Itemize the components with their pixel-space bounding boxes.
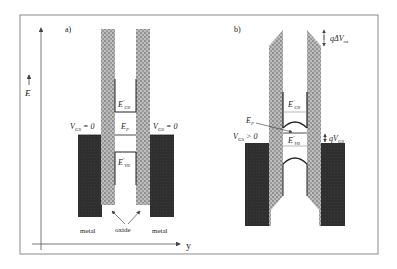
valence-band-label-a: E′V0 (117, 157, 130, 168)
metal-right-b (320, 143, 345, 226)
conduction-band-label-b: E′C0 (287, 99, 301, 110)
metal-left-b (245, 143, 271, 226)
y-axis-label: y (186, 240, 191, 251)
valence-band-edge-a (115, 152, 136, 185)
metal-right-a (150, 135, 174, 217)
gate-bias-left-a: VGS = 0 (70, 122, 94, 132)
metal-label-left: metal (80, 227, 96, 235)
qvgs-label: qVGS (329, 134, 345, 144)
gate-bias-left-b: VGS > 0 (233, 132, 257, 142)
oxide-right-b (307, 30, 321, 226)
conduction-band-edge-b (283, 122, 307, 128)
energy-axis-label: E (24, 88, 31, 98)
conduction-band-label-a: E′C0 (117, 99, 131, 110)
panel-a-label: a) (65, 25, 72, 34)
oxide-left-a (101, 29, 115, 205)
panel-a: y E a) E′C0 EF E′V0 VGS = 0 VGS = 0 meta… (24, 25, 191, 251)
metal-label-right: metal (152, 227, 168, 235)
band-diagram: y E a) E′C0 EF E′V0 VGS = 0 VGS = 0 meta… (0, 0, 397, 269)
oxide-pointer-right-icon (128, 211, 140, 224)
valence-band-label-b: E′V0 (287, 135, 300, 146)
valence-band-edge-b (283, 158, 307, 164)
oxide-pointer-left-icon (112, 211, 125, 224)
gate-bias-right-a: VGS = 0 (153, 122, 177, 132)
panel-b-label: b) (234, 25, 241, 34)
oxide-label: oxide (115, 226, 131, 234)
fermi-level-label-a: EF (120, 122, 130, 132)
fermi-level-label-b: EF (245, 116, 255, 126)
metal-left-a (78, 135, 102, 217)
panel-b: b) E′C0 E′V0 EF VGS > 0 qVGS qΔVox (233, 25, 349, 226)
oxide-right-a (136, 29, 150, 205)
qdvox-label: qΔVox (330, 34, 349, 44)
